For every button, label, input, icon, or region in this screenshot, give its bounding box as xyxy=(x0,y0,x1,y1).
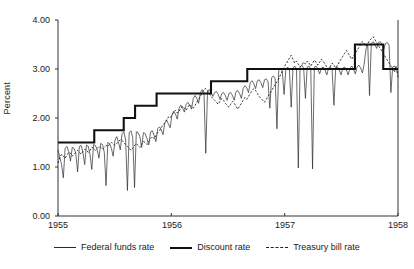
chart-legend: Federal funds rate Discount rate Treasur… xyxy=(0,242,414,252)
legend-label-discount-rate: Discount rate xyxy=(197,242,250,252)
axis-ticks xyxy=(55,20,398,216)
series-step-discount-rate xyxy=(58,45,398,143)
chart-figure: Percent 4.00 3.00 2.00 1.00 0.00 1955 19… xyxy=(0,0,414,269)
legend-line-icon-thick xyxy=(170,244,192,251)
legend-label-federal-funds-rate: Federal funds rate xyxy=(81,242,154,252)
legend-line-icon-dashed xyxy=(266,244,288,251)
legend-item-federal-funds-rate: Federal funds rate xyxy=(54,242,154,252)
series-layer xyxy=(58,37,398,191)
legend-line-icon-thin xyxy=(54,244,76,251)
series-line-federal-funds-rate xyxy=(58,42,398,191)
axis-lines xyxy=(58,20,398,216)
legend-item-discount-rate: Discount rate xyxy=(170,242,250,252)
series-line-treasury-bill-rate xyxy=(58,37,398,163)
legend-label-treasury-bill-rate: Treasury bill rate xyxy=(293,242,360,252)
chart-plot-area xyxy=(0,0,414,269)
legend-item-treasury-bill-rate: Treasury bill rate xyxy=(266,242,360,252)
